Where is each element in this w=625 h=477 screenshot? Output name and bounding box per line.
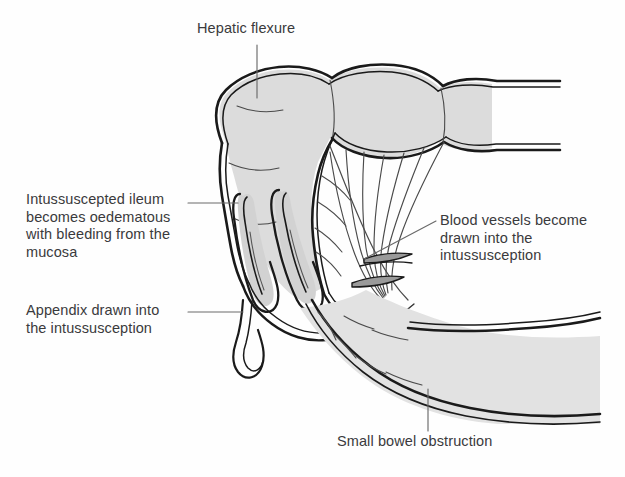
label-appendix: Appendix drawn into the intussusception — [26, 302, 159, 337]
label-small-bowel-obstruction: Small bowel obstruction — [337, 433, 492, 451]
small-bowel-obstruction — [300, 290, 600, 424]
label-blood-vessels: Blood vessels become drawn into the intu… — [440, 212, 587, 265]
label-intussuscepted-ileum: Intussuscepted ileum becomes oedematous … — [26, 191, 170, 261]
label-hepatic-flexure: Hepatic flexure — [197, 20, 295, 38]
mesentery-blood-vessels — [315, 142, 444, 300]
colon-hepatic-flexure — [216, 65, 560, 300]
illustration-canvas: Hepatic flexure Intussuscepted ileum bec… — [0, 0, 625, 477]
